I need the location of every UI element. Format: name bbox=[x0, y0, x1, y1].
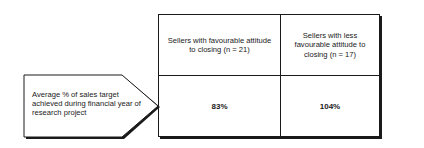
value-less-favourable: 104% bbox=[281, 76, 379, 136]
row-label: Average % of sales target achieved durin… bbox=[32, 90, 142, 117]
column-header-favourable: Sellers with favourable attitude to clos… bbox=[159, 15, 280, 75]
value-favourable: 83% bbox=[159, 76, 280, 136]
comparison-table: Sellers with favourable attitude to clos… bbox=[158, 14, 380, 137]
column-header-less-favourable: Sellers with less favourable attitude to… bbox=[281, 15, 379, 75]
